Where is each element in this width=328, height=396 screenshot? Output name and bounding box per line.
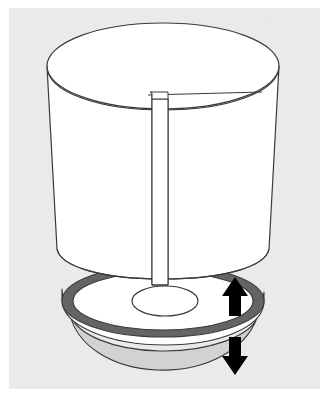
technical-illustration — [0, 0, 328, 396]
inner-panel-strip — [152, 99, 168, 285]
panel-notch-icon — [150, 92, 168, 99]
disc-center-hole — [132, 286, 198, 316]
figure-container: h — [0, 0, 328, 396]
